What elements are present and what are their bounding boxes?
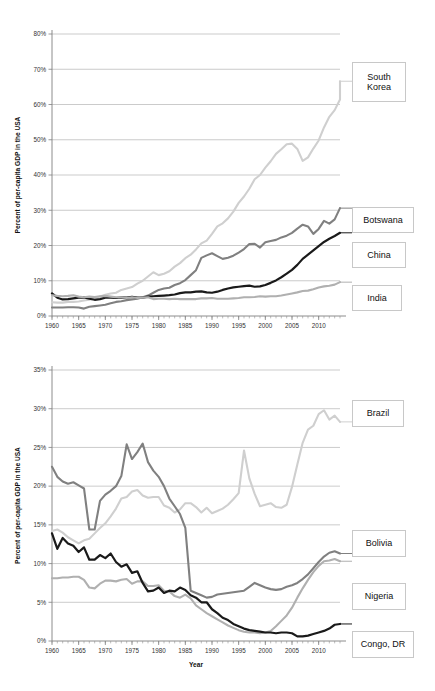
x-tick-label-2005: 2005	[285, 647, 300, 654]
x-tick-label-1960: 1960	[45, 647, 60, 654]
y-tick-label-50: 50%	[33, 136, 46, 143]
x-tick-label-2010: 2010	[312, 647, 327, 654]
x-tick-label-1975: 1975	[125, 647, 140, 654]
y-tick-label-0: 0%	[37, 312, 47, 319]
legend-label-india: India	[367, 293, 387, 303]
y-tick-label-40: 40%	[33, 171, 46, 178]
legend-india[interactable]: India	[352, 285, 402, 311]
x-tick-label-2005: 2005	[285, 322, 300, 329]
y-tick-label-35: 35%	[33, 366, 46, 373]
x-tick-label-1965: 1965	[72, 647, 87, 654]
x-tick-label-1970: 1970	[98, 647, 113, 654]
x-tick-label-1970: 1970	[98, 322, 113, 329]
y-tick-label-15: 15%	[33, 521, 46, 528]
y-axis-ticks: 0%5%10%15%20%25%30%35%	[33, 366, 52, 644]
y-tick-label-30: 30%	[33, 207, 46, 214]
legend-south-korea[interactable]: SouthKorea	[352, 62, 406, 102]
legend-label-nigeria: Nigeria	[365, 591, 394, 601]
gdp-comparison-figure: 0%10%20%30%40%50%60%70%80%19601965197019…	[0, 0, 435, 691]
series-line-china	[52, 233, 340, 300]
y-tick-label-0: 0%	[37, 637, 47, 644]
x-axis-title: Year	[189, 661, 203, 668]
legend-label-south-korea: SouthKorea	[367, 72, 391, 92]
x-tick-label-2000: 2000	[258, 322, 273, 329]
y-axis-ticks: 0%10%20%30%40%50%60%70%80%	[33, 30, 52, 319]
y-tick-label-70: 70%	[33, 66, 46, 73]
x-tick-label-1985: 1985	[178, 647, 193, 654]
y-tick-label-5: 5%	[37, 599, 47, 606]
legend-brazil[interactable]: Brazil	[352, 400, 404, 427]
x-tick-label-2000: 2000	[258, 647, 273, 654]
gridlines-group	[52, 370, 340, 602]
x-tick-label-1990: 1990	[205, 322, 220, 329]
legend-nigeria[interactable]: Nigeria	[352, 583, 406, 610]
y-axis-title: Percent of per-capita GDP in the USA	[14, 447, 22, 564]
y-tick-label-25: 25%	[33, 444, 46, 451]
chart-panel-bottom: 0%5%10%15%20%25%30%35%196019651970197519…	[0, 348, 435, 691]
y-axis-title: Percent of per-capita GDP in the USA	[14, 116, 22, 233]
y-tick-label-10: 10%	[33, 277, 46, 284]
y-tick-label-20: 20%	[33, 482, 46, 489]
x-tick-label-1980: 1980	[152, 647, 167, 654]
y-tick-label-60: 60%	[33, 101, 46, 108]
series-group	[52, 81, 340, 308]
x-tick-label-1995: 1995	[232, 322, 247, 329]
y-tick-label-80: 80%	[33, 30, 46, 37]
series-line-congo-dr	[52, 533, 340, 636]
x-tick-label-1985: 1985	[178, 322, 193, 329]
legend-china[interactable]: China	[352, 242, 406, 268]
y-tick-label-10: 10%	[33, 560, 46, 567]
x-tick-label-1975: 1975	[125, 322, 140, 329]
legend-label-brazil: Brazil	[367, 408, 390, 418]
x-tick-label-1995: 1995	[232, 647, 247, 654]
legend-botswana[interactable]: Botswana	[352, 207, 414, 233]
y-tick-label-30: 30%	[33, 405, 46, 412]
y-tick-label-20: 20%	[33, 242, 46, 249]
legend-bolivia[interactable]: Bolivia	[352, 530, 406, 557]
x-axis-ticks: 1960196519701975198019851990199520002005…	[45, 641, 326, 654]
gridlines-group	[52, 34, 340, 281]
x-tick-label-1965: 1965	[72, 322, 87, 329]
x-axis-ticks: 1960196519701975198019851990199520002005…	[45, 316, 326, 329]
legend-label-china: China	[367, 250, 391, 260]
x-tick-label-1980: 1980	[152, 322, 167, 329]
x-tick-label-1960: 1960	[45, 322, 60, 329]
legend-congo-dr[interactable]: Congo, DR	[352, 631, 414, 658]
legend-label-botswana: Botswana	[363, 215, 403, 225]
legend-label-congo-dr: Congo, DR	[361, 639, 406, 649]
legend-leader-lines	[339, 422, 352, 624]
legend-label-bolivia: Bolivia	[366, 538, 393, 548]
legend-leader-lines	[339, 81, 352, 282]
x-tick-label-1990: 1990	[205, 647, 220, 654]
chart-panel-top: 0%10%20%30%40%50%60%70%80%19601965197019…	[0, 0, 435, 348]
x-tick-label-2010: 2010	[312, 322, 327, 329]
series-line-nigeria	[52, 559, 340, 633]
